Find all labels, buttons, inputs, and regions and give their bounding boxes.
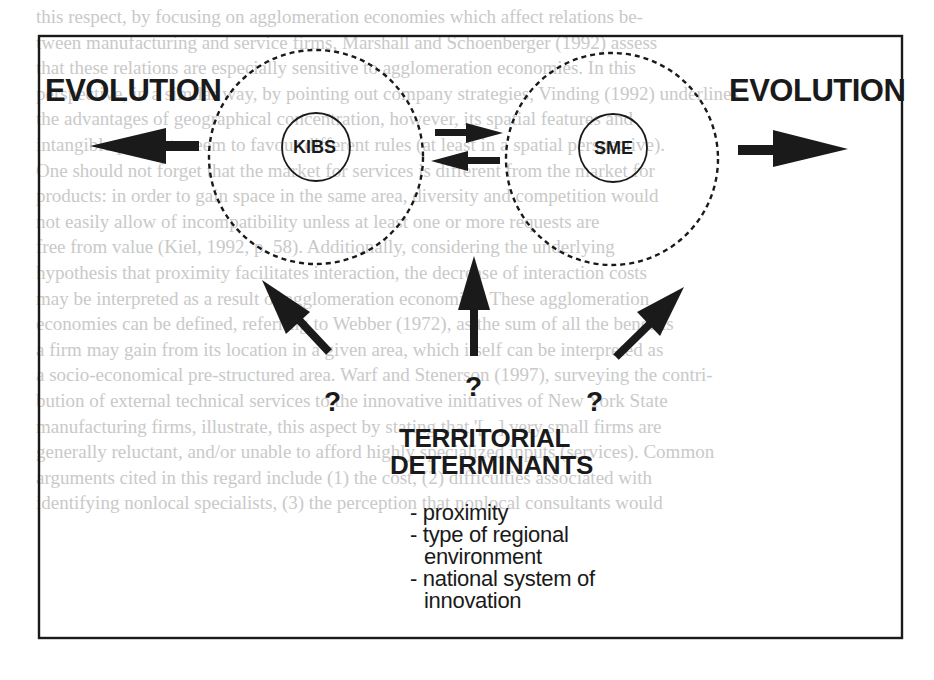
title-line-2: DETERMINANTS: [390, 452, 593, 479]
list-item-regional-environment-cont: environment: [410, 546, 595, 568]
influence-arrow-right-icon: [616, 287, 684, 357]
question-mark-center: ?: [465, 373, 482, 401]
sme-node-label: SME: [594, 139, 633, 157]
sme-area-dashed-circle: [506, 53, 718, 265]
left-evolution-label: EVOLUTION: [45, 75, 221, 106]
kibs-node-label: KIBS: [293, 138, 336, 156]
sme-to-kibs-arrow-icon: [431, 151, 500, 171]
kibs-to-sme-arrow-icon: [435, 123, 503, 143]
right-evolution-label: EVOLUTION: [729, 75, 905, 106]
list-item-proximity: - proximity: [410, 502, 595, 524]
list-item-regional-environment: - type of regional: [410, 524, 595, 546]
left-evolution-arrow-icon: [90, 128, 199, 164]
question-mark-right: ?: [586, 388, 603, 416]
right-evolution-arrow-icon: [738, 130, 848, 167]
influence-arrow-center-icon: [458, 256, 490, 356]
influence-arrow-left-icon: [262, 280, 329, 352]
question-mark-left: ?: [324, 388, 341, 416]
title-line-1: TERRITORIAL: [390, 425, 593, 452]
list-item-national-system-cont: innovation: [410, 590, 595, 612]
list-item-national-system: - national system of: [410, 568, 595, 590]
kibs-area-dashed-circle: [209, 50, 423, 264]
territorial-determinants-title: TERRITORIAL DETERMINANTS: [390, 425, 593, 479]
territorial-determinants-list: - proximity - type of regional environme…: [410, 502, 595, 612]
